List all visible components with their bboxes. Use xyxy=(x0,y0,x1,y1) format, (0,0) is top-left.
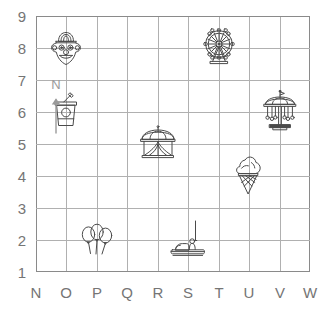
x-tick-p: P xyxy=(92,285,102,300)
north-arrow-indicator: N xyxy=(45,78,67,134)
plot-area: N xyxy=(36,16,310,272)
x-tick-t: T xyxy=(214,285,223,300)
marker-circus-tent[interactable] xyxy=(136,122,180,166)
marker-clown-face[interactable] xyxy=(44,26,88,70)
gridline-h-7 xyxy=(36,80,310,81)
north-arrow-icon xyxy=(50,94,62,134)
x-tick-u: U xyxy=(244,285,255,300)
north-label: N xyxy=(51,78,60,91)
x-tick-q: Q xyxy=(121,285,133,300)
marker-ferris-wheel[interactable] xyxy=(197,26,241,70)
marker-balloons[interactable] xyxy=(75,218,119,262)
x-tick-r: R xyxy=(153,285,164,300)
x-tick-o: O xyxy=(60,285,72,300)
marker-bumper-car[interactable] xyxy=(166,218,210,262)
x-tick-v: V xyxy=(275,285,285,300)
x-tick-w: W xyxy=(303,285,317,300)
x-tick-n: N xyxy=(31,285,42,300)
marker-ice-cream[interactable] xyxy=(227,154,271,198)
gridline-h-9 xyxy=(36,16,310,17)
amusement-park-grid-map: 9 8 7 6 5 4 3 2 1 N O P Q R S T U V W xyxy=(0,0,332,313)
x-tick-s: S xyxy=(183,285,193,300)
gridline-h-3 xyxy=(36,208,310,209)
marker-carousel[interactable] xyxy=(258,90,302,134)
gridline-h-1 xyxy=(36,271,310,272)
